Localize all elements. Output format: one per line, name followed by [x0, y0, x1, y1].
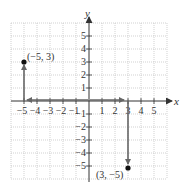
x-tick: 2 [113, 105, 118, 116]
point-3-neg5 [125, 165, 130, 170]
y-tick: 4 [81, 43, 86, 54]
y-tick: 1 [81, 82, 86, 93]
coordinate-plane: x y −5 −4 −3 −2 −1 1 2 3 4 5 5 4 3 2 1 −… [0, 0, 181, 193]
x-tick: 1 [100, 105, 105, 116]
x-tick: 5 [152, 105, 157, 116]
y-tick: −3 [75, 134, 86, 145]
point-label-3-neg5: (3, −5) [96, 169, 123, 181]
x-tick: −4 [30, 105, 41, 116]
y-tick: 5 [81, 30, 86, 41]
y-tick: −4 [75, 147, 86, 158]
x-tick: −2 [56, 105, 67, 116]
x-tick: −3 [43, 105, 54, 116]
point-neg5-3 [21, 59, 26, 64]
x-tick: 4 [139, 105, 144, 116]
y-axis-label: y [84, 7, 90, 19]
y-tick: 2 [81, 69, 86, 80]
y-tick: −2 [75, 121, 86, 132]
point-label-neg5-3: (−5, 3) [27, 51, 54, 63]
x-tick: −5 [17, 105, 28, 116]
y-tick: 3 [81, 56, 86, 67]
y-tick: −1 [75, 108, 86, 119]
x-axis-label: x [173, 95, 179, 107]
y-tick: −5 [75, 160, 86, 171]
